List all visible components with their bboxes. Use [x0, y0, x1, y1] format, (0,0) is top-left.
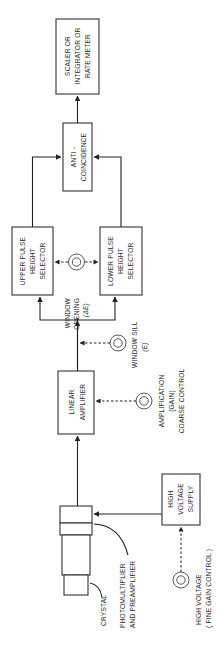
linear-amp-label-1: LINEAR: [68, 389, 75, 414]
anticoincidence-label-2: COINCIDENCE: [80, 132, 87, 181]
arrow-upper-phs-to-anticoincidence: [33, 157, 62, 227]
window-opening-label-2: OPENING: [73, 298, 80, 330]
lower-pulse-height-selector-block: LOWER PULSE HEIGHT SELECTOR: [100, 227, 142, 295]
window-sill-label-1: WINDOW SILL: [131, 321, 138, 368]
high-voltage-control[interactable]: HIGH VOLTAGE ( FINE GAIN CONTROL ): [173, 527, 213, 628]
high-voltage-supply-block: HIGH VOLTAGE SUPPLY: [162, 474, 200, 525]
amplification-label-1: AMPLIFICATION: [158, 375, 165, 428]
scaler-label-2: INTEGRATOR OR: [74, 27, 81, 84]
crystal: [64, 575, 88, 595]
amplification-label-3: COARSE CONTROL: [178, 369, 185, 434]
upper-phs-label-1: UPPER PULSE: [19, 236, 26, 285]
detector-assembly: CRYSTAL PHOTOMULTIPLIER AND PREAMPLIFIER: [60, 506, 136, 628]
scaler-label-1: SCALER OR: [64, 36, 71, 76]
upper-pulse-height-selector-block: UPPER PULSE HEIGHT SELECTOR: [12, 227, 53, 295]
pmt-label-2: AND PREAMPLIFIER: [129, 561, 136, 628]
hv-label-2: VOLTAGE: [177, 483, 184, 515]
linear-amplifier-block: LINEAR AMPLIFIER: [58, 371, 94, 434]
upper-phs-label-2: HEIGHT: [29, 248, 36, 274]
window-opening-control[interactable]: WINDOW OPENING (ΔE): [55, 254, 98, 330]
crystal-label: CRYSTAL: [100, 595, 107, 626]
lower-phs-label-2: HEIGHT: [117, 248, 124, 274]
pmt-label-1: PHOTOMULTIPLIER: [119, 563, 126, 628]
window-opening-label-3: (ΔE): [82, 303, 90, 317]
lower-phs-label-3: SELECTOR: [127, 242, 134, 279]
arrow-lower-phs-to-anticoincidence: [94, 157, 121, 227]
scaler-integrator-ratemeter-block: SCALER OR INTEGRATOR OR RATE METER: [56, 19, 99, 94]
amplification-label-2: (GAIN): [168, 390, 176, 412]
anticoincidence-block: ANTI - COINCIDENCE: [63, 123, 92, 191]
scaler-label-3: RATE METER: [84, 34, 91, 78]
preamplifier-section: [60, 506, 92, 523]
anticoincidence-label-1: ANTI -: [70, 147, 77, 167]
lower-phs-label-1: LOWER PULSE: [107, 236, 114, 286]
photomultiplier-tube: [62, 535, 90, 575]
arrow-to-upper-phs: [40, 297, 78, 320]
amplification-gain-control[interactable]: AMPLIFICATION (GAIN) COARSE CONTROL: [96, 369, 185, 434]
window-sill-control[interactable]: WINDOW SILL (E): [80, 321, 149, 368]
hv-control-label-2: ( FINE GAIN CONTROL ): [205, 549, 213, 628]
linear-amp-label-2: AMPLIFIER: [79, 384, 86, 421]
window-sill-label-2: (E): [141, 342, 149, 351]
window-opening-label-1: WINDOW: [64, 297, 71, 328]
hv-control-label-1: HIGH VOLTAGE: [195, 574, 202, 625]
hv-label-3: SUPPLY: [187, 485, 194, 512]
block-diagram: SCALER OR INTEGRATOR OR RATE METER ANTI …: [0, 0, 219, 664]
upper-phs-label-3: SELECTOR: [39, 242, 46, 279]
pmt-base-section: [60, 523, 92, 535]
hv-label-1: HIGH: [167, 490, 174, 507]
